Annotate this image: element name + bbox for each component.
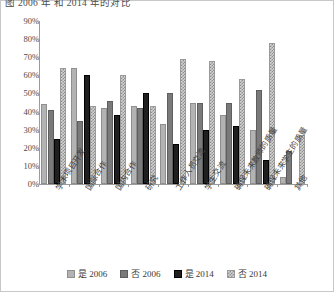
legend-label: 是 2014 bbox=[185, 267, 214, 280]
legend-item[interactable]: 是 2006 bbox=[67, 267, 107, 280]
legend-swatch bbox=[174, 270, 182, 278]
x-axis-tick-mark bbox=[247, 184, 248, 187]
bar bbox=[280, 177, 286, 184]
bar-group bbox=[41, 21, 66, 184]
bar-group bbox=[220, 21, 245, 184]
figure-caption: 图 2006 年 和 2014 年的对比 bbox=[5, 0, 131, 7]
bar bbox=[160, 124, 166, 184]
bar-group bbox=[131, 21, 156, 184]
legend-label: 是 2006 bbox=[78, 267, 107, 280]
x-axis-tick-mark bbox=[188, 184, 189, 187]
legend-label: 否 2014 bbox=[238, 267, 267, 280]
legend-label: 否 2006 bbox=[131, 267, 160, 280]
bar bbox=[256, 90, 262, 184]
bar bbox=[84, 75, 90, 184]
bar bbox=[107, 101, 113, 184]
legend-item[interactable]: 否 2014 bbox=[227, 267, 267, 280]
bar bbox=[41, 104, 47, 184]
bar bbox=[167, 93, 173, 184]
bar bbox=[226, 103, 232, 185]
bar bbox=[197, 103, 203, 185]
legend-swatch bbox=[120, 270, 128, 278]
x-axis-tick-mark bbox=[128, 184, 129, 187]
legend-swatch bbox=[67, 270, 75, 278]
bar bbox=[137, 108, 143, 184]
chart-legend: 是 2006否 2006是 2014否 2014 bbox=[1, 267, 333, 280]
x-axis-tick-mark bbox=[158, 184, 159, 187]
legend-swatch bbox=[227, 270, 235, 278]
bar bbox=[209, 61, 215, 184]
bar bbox=[233, 126, 239, 184]
bar bbox=[143, 93, 149, 184]
legend-item[interactable]: 是 2014 bbox=[174, 267, 214, 280]
bar bbox=[114, 115, 120, 184]
bar bbox=[203, 130, 209, 184]
x-axis-tick-mark bbox=[218, 184, 219, 187]
chart-figure: 图 2006 年 和 2014 年的对比 0%10%20%30%40%50%60… bbox=[0, 0, 334, 292]
x-axis-tick-mark bbox=[307, 184, 308, 187]
bar bbox=[269, 43, 275, 184]
x-axis-tick-mark bbox=[99, 184, 100, 187]
bar-group bbox=[101, 21, 126, 184]
bar bbox=[150, 106, 156, 184]
bar-group bbox=[160, 21, 185, 184]
legend-item[interactable]: 否 2006 bbox=[120, 267, 160, 280]
bar bbox=[48, 110, 54, 184]
x-axis-tick-mark bbox=[277, 184, 278, 187]
bar bbox=[180, 59, 186, 184]
x-axis-tick-mark bbox=[69, 184, 70, 187]
